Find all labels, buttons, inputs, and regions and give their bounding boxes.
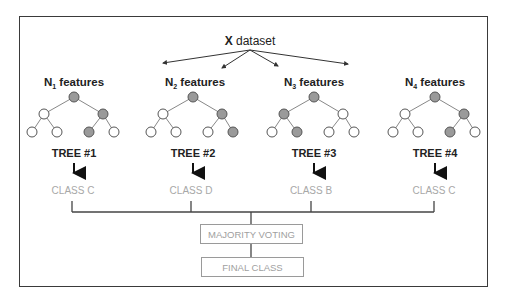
node-icon (413, 127, 423, 137)
selected-node-icon (98, 109, 108, 119)
tree-4-label: TREE #4 (413, 147, 458, 159)
node-icon (203, 127, 213, 137)
node-icon (39, 109, 49, 119)
node-icon (470, 127, 480, 137)
tree-4-features: N4 features (405, 76, 465, 90)
selected-node-icon (228, 127, 238, 137)
tree-4 (388, 92, 480, 137)
tree-1-class: CLASS C (52, 185, 95, 196)
selected-node-icon (188, 92, 198, 102)
tree-output-arrows (74, 163, 435, 173)
node-icon (324, 127, 334, 137)
decision-trees (27, 92, 480, 137)
selected-node-icon (430, 92, 440, 102)
node-icon (171, 127, 181, 137)
tree-2 (146, 92, 238, 137)
node-icon (267, 127, 277, 137)
tree-4-class: CLASS C (413, 185, 456, 196)
node-icon (27, 127, 37, 137)
node-icon (349, 127, 359, 137)
final-class-box: FINAL CLASS (201, 257, 304, 277)
dataset-label: X dataset (225, 34, 276, 48)
node-icon (109, 127, 119, 137)
majority-voting-box: MAJORITY VOTING (200, 224, 303, 244)
selected-node-icon (84, 127, 94, 137)
tree-3-class: CLASS B (290, 185, 332, 196)
selected-node-icon (309, 92, 319, 102)
tree-3-label: TREE #3 (292, 147, 337, 159)
selected-node-icon (217, 109, 227, 119)
node-icon (146, 127, 156, 137)
selected-node-icon (292, 127, 302, 137)
tree-1-label: TREE #1 (52, 147, 97, 159)
tree-1 (27, 92, 119, 137)
tree-2-label: TREE #2 (171, 147, 216, 159)
tree-2-features: N2 features (165, 76, 225, 90)
node-icon (158, 109, 168, 119)
tree-1-features: N1 features (44, 76, 104, 90)
dataset-arrows (163, 50, 348, 68)
tree-3-features: N3 features (284, 76, 344, 90)
tree-2-class: CLASS D (170, 185, 213, 196)
node-icon (52, 127, 62, 137)
selected-node-icon (69, 92, 79, 102)
selected-node-icon (279, 109, 289, 119)
tree-3 (267, 92, 359, 137)
node-icon (400, 109, 410, 119)
selected-node-icon (445, 127, 455, 137)
selected-node-icon (459, 109, 469, 119)
node-icon (388, 127, 398, 137)
node-icon (338, 109, 348, 119)
